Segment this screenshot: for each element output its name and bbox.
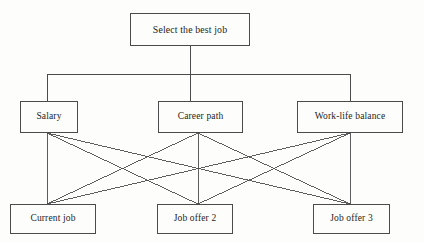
node-job-offer-2[interactable]: Job offer 2 (157, 204, 233, 234)
node-career-path[interactable]: Career path (158, 101, 243, 133)
node-job-offer-3-label: Job offer 3 (330, 214, 373, 224)
node-job-offer-2-label: Job offer 2 (174, 214, 217, 224)
node-work-life-balance[interactable]: Work-life balance (297, 101, 403, 133)
decision-hierarchy-diagram: Select the best job Salary Career path W… (0, 0, 424, 242)
node-career-path-label: Career path (178, 112, 224, 122)
node-goal[interactable]: Select the best job (130, 13, 250, 46)
node-current-job[interactable]: Current job (10, 204, 96, 234)
node-salary-label: Salary (36, 112, 61, 122)
node-goal-label: Select the best job (153, 25, 227, 35)
node-salary[interactable]: Salary (20, 101, 78, 133)
node-current-job-label: Current job (30, 214, 75, 224)
node-work-life-balance-label: Work-life balance (315, 112, 386, 122)
node-job-offer-3[interactable]: Job offer 3 (313, 204, 390, 234)
